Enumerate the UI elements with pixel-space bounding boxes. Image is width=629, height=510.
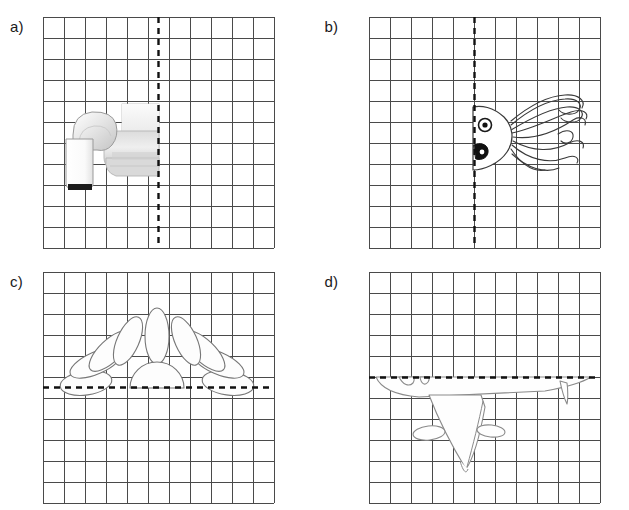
panel-b-canvas (315, 0, 629, 255)
flower-icon (59, 308, 256, 399)
panel-a: a) (0, 0, 315, 255)
panel-a-canvas (0, 0, 314, 255)
symmetry-worksheet: a) (0, 0, 629, 510)
panel-d: d) (315, 255, 629, 510)
squid-icon (473, 95, 587, 170)
panel-c-canvas (0, 255, 314, 510)
sofa-icon (66, 104, 159, 190)
panel-d-canvas (315, 255, 629, 510)
panel-b: b) (315, 0, 629, 255)
panel-c: c) (0, 255, 315, 510)
